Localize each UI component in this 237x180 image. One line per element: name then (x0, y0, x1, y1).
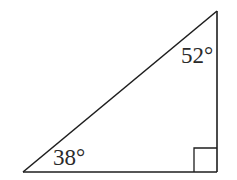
triangle-svg: 52° 38° (0, 0, 237, 180)
angle-label-bottom-left: 38° (53, 145, 85, 170)
angle-label-top: 52° (181, 43, 213, 68)
triangle-diagram: 52° 38° (0, 0, 237, 180)
right-angle-marker (194, 148, 217, 172)
